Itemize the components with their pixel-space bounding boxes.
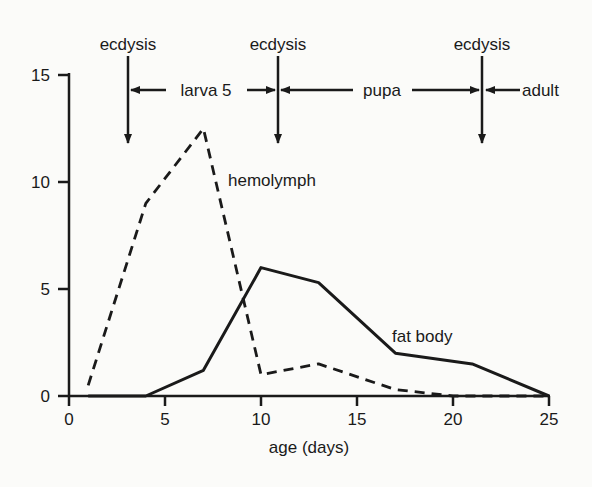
y-tick-label: 5: [41, 280, 50, 299]
x-tick-label: 0: [64, 410, 73, 429]
series-label-hemolymph: hemolymph: [228, 171, 316, 190]
axes: [68, 73, 550, 397]
stage-label-larva-5: larva 5: [180, 81, 231, 100]
stage-label-pupa: pupa: [363, 81, 401, 100]
ecdysis-label: ecdysis: [100, 35, 157, 54]
series-lines: [88, 129, 549, 397]
x-tick-label: 10: [252, 410, 271, 429]
y-ticks: 051015: [31, 66, 69, 406]
x-tick-label: 25: [540, 410, 559, 429]
series-label-fat-body: fat body: [392, 327, 453, 346]
x-ticks: 0510152025: [64, 396, 558, 429]
ecdysis-label: ecdysis: [250, 35, 307, 54]
stage-label-adult: adult: [522, 81, 559, 100]
x-tick-label: 5: [160, 410, 169, 429]
x-tick-label: 15: [348, 410, 367, 429]
series-line-fat-body: [88, 268, 549, 396]
x-axis-label: age (days): [269, 438, 349, 457]
series-line-hemolymph: [88, 129, 549, 397]
y-tick-label: 15: [31, 66, 50, 85]
ecdysis-label: ecdysis: [454, 35, 511, 54]
chart: 051015 0510152025 age (days) hemolymph f…: [0, 0, 592, 487]
y-tick-label: 10: [31, 173, 50, 192]
y-tick-label: 0: [41, 387, 50, 406]
x-tick-label: 20: [444, 410, 463, 429]
